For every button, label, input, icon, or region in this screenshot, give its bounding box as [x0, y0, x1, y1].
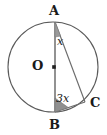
- center-point-dot: [52, 65, 56, 69]
- angle-label-3x: 3x: [56, 93, 69, 104]
- center-label-o: O: [32, 59, 43, 72]
- geometry-figure: A B C O x 3x: [0, 0, 107, 135]
- point-label-b: B: [49, 118, 60, 131]
- angle-label-x: x: [57, 36, 63, 47]
- circle-diagram-canvas: [0, 0, 107, 135]
- point-label-a: A: [49, 4, 59, 17]
- point-label-c: C: [90, 96, 100, 109]
